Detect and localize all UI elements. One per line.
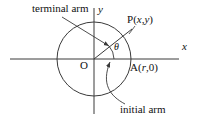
point-a-label: A(r,0) — [130, 62, 158, 73]
trigonometry-circle-diagram: terminal arm initial arm P(x,y) A(r,0) O… — [0, 0, 204, 121]
terminal-arm-radius — [94, 29, 132, 59]
point-p-close-paren: ) — [149, 13, 153, 25]
point-p-label: P(x,y) — [127, 14, 153, 25]
x-axis-label: x — [182, 41, 187, 52]
y-axis-label: y — [98, 4, 103, 15]
point-a-name: A — [130, 61, 138, 73]
theta-angle-label: θ — [114, 42, 119, 52]
diagram-canvas — [0, 0, 204, 121]
origin-label: O — [80, 60, 88, 71]
terminal-arm-label: terminal arm — [32, 3, 89, 14]
point-a-close-paren: ) — [154, 61, 158, 73]
point-p-marker — [129, 26, 135, 34]
initial-arm-label: initial arm — [120, 104, 166, 115]
